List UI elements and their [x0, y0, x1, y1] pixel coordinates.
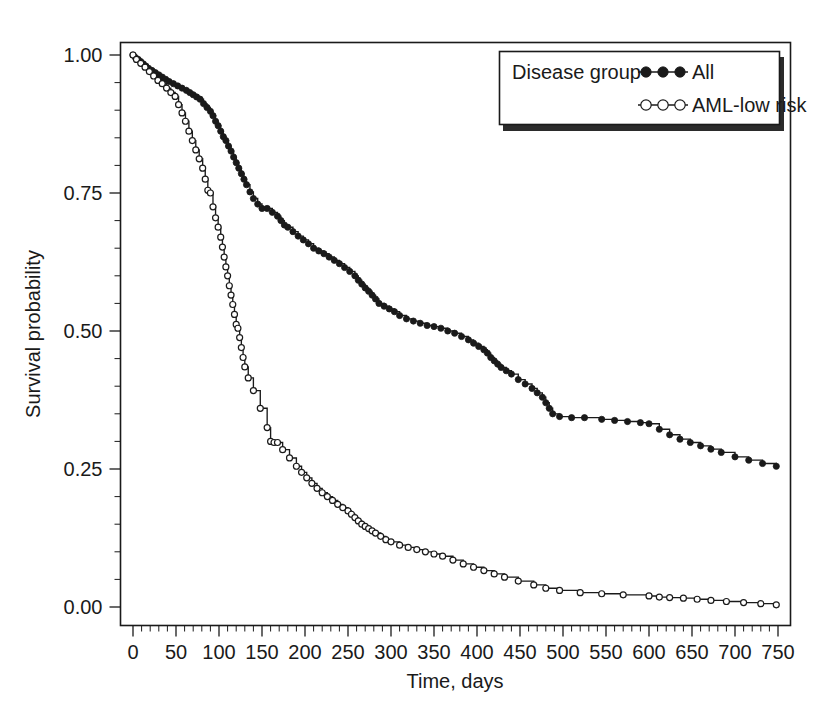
censor-marker — [620, 592, 626, 598]
censor-marker — [226, 283, 232, 289]
event-marker — [637, 420, 643, 426]
event-marker — [458, 333, 464, 339]
y-axis-tick-labels: 0.000.250.500.751.00 — [64, 44, 103, 618]
censor-marker — [231, 311, 237, 317]
censor-marker — [221, 254, 227, 260]
censor-marker — [179, 110, 185, 116]
censor-marker — [471, 564, 477, 570]
x-tick-label: 250 — [331, 641, 364, 663]
x-axis-ticks — [133, 626, 778, 637]
legend-marker-all-icon — [638, 67, 688, 77]
x-tick-label: 300 — [374, 641, 407, 663]
censor-marker — [304, 475, 310, 481]
event-marker — [556, 413, 562, 419]
legend-title: Disease group — [512, 61, 641, 83]
x-tick-label: 350 — [417, 641, 450, 663]
legend-open-circle-icon — [675, 100, 685, 110]
censor-marker — [237, 335, 243, 341]
event-marker — [228, 148, 234, 154]
censor-marker — [450, 557, 456, 563]
censor-marker — [694, 596, 700, 602]
legend-marker-aml-low-risk-icon — [638, 100, 688, 110]
event-marker — [773, 463, 779, 469]
x-axis-tick-labels: 0501001502002503003504004505005506006507… — [127, 641, 794, 663]
censor-marker — [440, 553, 446, 559]
event-marker — [410, 318, 416, 324]
event-marker — [732, 454, 738, 460]
x-tick-label: 50 — [165, 641, 187, 663]
event-marker — [746, 457, 752, 463]
event-marker — [543, 400, 549, 406]
x-axis-title: Time, days — [406, 670, 503, 692]
legend-open-circle-icon — [658, 100, 668, 110]
y-tick-label: 0.75 — [64, 182, 103, 204]
censor-marker — [481, 568, 487, 574]
event-marker — [539, 394, 545, 400]
censor-marker — [230, 302, 236, 308]
x-tick-label: 100 — [202, 641, 235, 663]
censor-marker — [557, 587, 563, 593]
censor-marker — [193, 147, 199, 153]
series-layer — [130, 52, 779, 608]
censor-marker — [257, 405, 263, 411]
censor-marker — [274, 440, 280, 446]
event-marker — [250, 195, 256, 201]
event-marker — [403, 316, 409, 322]
censor-marker — [240, 355, 246, 361]
censor-marker — [245, 375, 251, 381]
censor-marker — [202, 176, 208, 182]
legend-open-circle-icon — [641, 100, 651, 110]
censor-marker — [646, 593, 652, 599]
censor-marker — [656, 594, 662, 600]
event-marker — [708, 446, 714, 452]
censor-marker — [422, 549, 428, 555]
censor-marker — [172, 93, 178, 99]
x-tick-label: 750 — [761, 641, 794, 663]
censor-marker — [250, 388, 256, 394]
event-marker — [445, 328, 451, 334]
censor-marker — [238, 345, 244, 351]
event-marker — [569, 415, 575, 421]
event-marker — [624, 418, 630, 424]
censor-marker — [176, 102, 182, 108]
censor-marker — [515, 578, 521, 584]
censor-marker — [414, 547, 420, 553]
censor-marker — [299, 469, 305, 475]
event-marker — [438, 325, 444, 331]
y-tick-label: 0.50 — [64, 320, 103, 342]
censor-marker — [219, 244, 225, 250]
censor-marker — [758, 601, 764, 607]
event-marker — [550, 411, 556, 417]
event-marker — [397, 312, 403, 318]
censor-marker — [397, 542, 403, 548]
censor-marker — [577, 590, 583, 596]
x-tick-label: 600 — [632, 641, 665, 663]
censor-marker — [215, 224, 221, 230]
x-tick-label: 650 — [675, 641, 708, 663]
event-marker — [452, 330, 458, 336]
censor-marker — [502, 574, 508, 580]
censor-marker — [189, 138, 195, 144]
censor-marker — [491, 571, 497, 577]
event-marker — [247, 189, 253, 195]
censor-marker — [210, 204, 216, 210]
event-marker — [347, 268, 353, 274]
censor-marker — [723, 598, 729, 604]
event-marker — [424, 322, 430, 328]
event-marker — [581, 415, 587, 421]
event-marker — [546, 405, 552, 411]
event-marker — [305, 241, 311, 247]
event-marker — [522, 381, 528, 387]
event-marker — [646, 421, 652, 427]
legend: Disease group All AML-low risk — [500, 52, 808, 132]
y-tick-label: 0.25 — [64, 458, 103, 480]
censor-marker — [599, 591, 605, 597]
censor-marker — [264, 425, 270, 431]
censor-marker — [667, 595, 673, 601]
censor-marker — [207, 190, 213, 196]
x-tick-label: 450 — [503, 641, 536, 663]
event-marker — [759, 460, 765, 466]
censor-marker — [388, 539, 394, 545]
event-marker — [687, 439, 693, 445]
censor-marker — [314, 485, 320, 491]
